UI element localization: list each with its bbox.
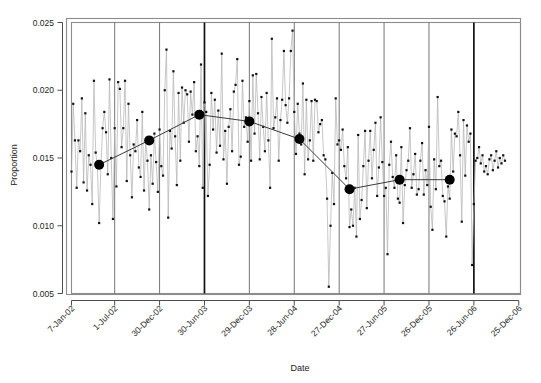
x-axis-title: Date: [290, 363, 309, 373]
y-tick-label: 0.020: [33, 85, 55, 95]
y-tick-label: 0.010: [33, 221, 55, 231]
proportion-time-series-chart: 0.0050.0100.0150.0200.025 7-Jan-021-Jul-…: [0, 0, 541, 383]
y-tick-label: 0.005: [33, 289, 55, 299]
y-tick-label: 0.025: [33, 18, 55, 28]
y-axis-title: Proportion: [9, 144, 19, 186]
y-tick-label: 0.015: [33, 153, 55, 163]
chart-figure: 0.0050.0100.0150.0200.025 7-Jan-021-Jul-…: [0, 0, 541, 383]
